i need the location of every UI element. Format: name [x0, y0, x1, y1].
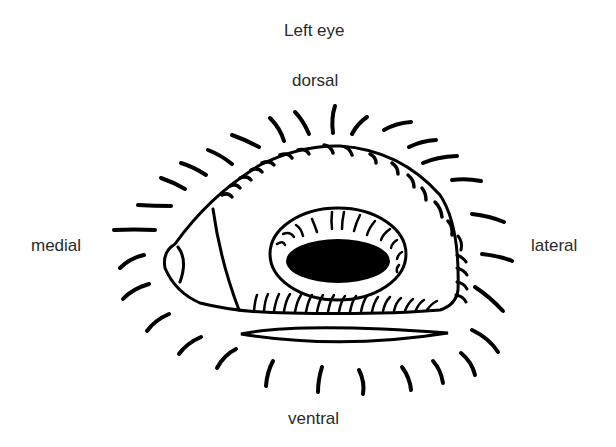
upper-lid-lashes	[222, 145, 452, 235]
lower-lid-lashes	[254, 294, 437, 312]
medial-caruncle	[178, 247, 184, 282]
eye-drawing	[0, 0, 616, 447]
ventral-fold	[241, 328, 448, 342]
pupil	[286, 239, 390, 283]
nictitating-fold	[213, 209, 239, 310]
eyelid-outline	[164, 146, 458, 314]
